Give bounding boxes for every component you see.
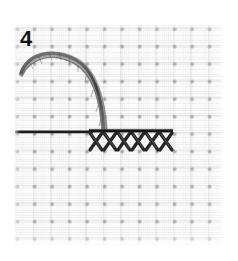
step-number: 4	[20, 28, 32, 50]
fabric-weave-intersections	[13, 25, 222, 246]
embroidery-step-screenshot: 4	[0, 0, 238, 261]
aida-fabric	[13, 25, 222, 246]
